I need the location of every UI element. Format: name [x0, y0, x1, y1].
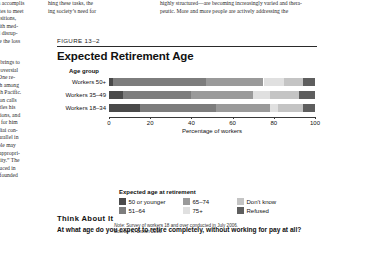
bar-segment: [123, 91, 191, 99]
bar-segment: [109, 104, 140, 112]
body-text-line: hing these tasks, the: [48, 0, 105, 8]
body-text-line: ath.” One re-: [0, 74, 48, 82]
figure-title: Expected Retirement Age: [57, 50, 317, 62]
bar-segment: [216, 104, 270, 112]
x-axis-tick-label: 20: [147, 120, 154, 126]
think-about-it-question: At what age do you expect to retire comp…: [57, 226, 357, 233]
body-text-line: as a parallel in: [0, 134, 48, 142]
bar-segment: [253, 91, 269, 99]
bar-segment: [299, 91, 315, 99]
legend-label: Refused: [247, 208, 269, 214]
legend-swatch: [183, 207, 190, 214]
body-text-line: ossessions, and: [0, 112, 48, 120]
bar-category-label: Workers 18–34: [57, 103, 106, 114]
body-text-line: al transitions,: [0, 15, 48, 23]
body-text-line: t controversial: [0, 67, 48, 75]
legend-swatch: [119, 207, 126, 214]
bar-row: Workers 35–49: [57, 90, 317, 101]
body-text-line: g person calls: [0, 97, 48, 105]
legend-label: Don’t know: [247, 199, 277, 205]
bar-segment: [191, 91, 253, 99]
y-axis-title: Age group: [69, 68, 99, 74]
bar-segment: [113, 78, 206, 86]
x-axis-tick-label: 0: [107, 120, 110, 126]
bar-segment: [270, 104, 278, 112]
body-text-line: despite the loss: [0, 38, 48, 46]
body-text-line: es, settles his: [0, 104, 48, 112]
x-axis-title: Percentage of workers: [182, 128, 242, 134]
legend-title: Expected age at retirement: [119, 189, 319, 195]
bar-segment: [264, 78, 285, 86]
body-text-line: ors. In accomplis: [0, 0, 48, 8]
legend-swatch: [119, 198, 126, 205]
bar-segment: [278, 104, 303, 112]
bar-category-label: Workers 50+: [57, 77, 106, 88]
legend-item: 50 or younger: [119, 197, 181, 206]
body-text-line: introduced in: [0, 165, 48, 173]
x-axis-tick-label: 40: [188, 120, 195, 126]
figure-13-2: FIGURE 13–2 Expected Retirement Age Age …: [57, 37, 317, 205]
legend-label: 65–74: [193, 199, 210, 205]
body-text-line: e people may: [0, 142, 48, 150]
legend-swatch: [183, 198, 190, 205]
body-text-line: he Kaliai con-: [0, 127, 48, 135]
x-axis-line: [109, 117, 315, 118]
stacked-bar: [109, 78, 315, 86]
bar-segment: [284, 78, 303, 86]
body-text-line: h dignity.” The: [0, 157, 48, 165]
body-text-line: ing society’s need for: [48, 8, 105, 16]
body-text-line: e South Pacific.: [0, 89, 48, 97]
body-text-line: nce with med-: [0, 23, 48, 31]
bar-row: Workers 50+: [57, 77, 317, 88]
bar-segment: [303, 78, 315, 86]
legend-swatch: [237, 198, 244, 205]
body-text-line: 67, is founded: [0, 172, 48, 180]
legend-item: 65–74: [183, 197, 235, 206]
x-axis-tick: [109, 117, 110, 120]
x-axis-tick: [150, 117, 151, 120]
figure-rule: [57, 46, 317, 47]
legend-label: 51–64: [129, 208, 146, 214]
bar-row: Workers 18–34: [57, 103, 317, 114]
x-axis-tick-label: 60: [229, 120, 236, 126]
figure-number: FIGURE 13–2: [57, 37, 317, 46]
body-text-line: peutic. More and more people are activel…: [160, 8, 356, 16]
legend-items: 50 or younger65–74Don’t know51–6475+Refu…: [119, 197, 319, 215]
bar-segment: [270, 91, 299, 99]
bar-segment: [303, 104, 315, 112]
bar-segment: [140, 104, 216, 112]
body-text-line: inimal disrup-: [0, 30, 48, 38]
x-axis-tick: [191, 117, 192, 120]
stacked-bar: [109, 91, 315, 99]
body-text-right-top: highly structured—are becoming increasin…: [160, 0, 356, 15]
legend-swatch: [237, 207, 244, 214]
chart-legend: Expected age at retirement 50 or younger…: [119, 189, 319, 215]
think-about-it-heading: Think About It: [57, 214, 357, 223]
think-about-it-section: Think About It At what age do you expect…: [57, 214, 357, 233]
bar-category-label: Workers 35–49: [57, 90, 106, 101]
x-axis: 020406080100 Percentage of workers: [109, 117, 315, 118]
body-text-line: s time for him: [0, 119, 48, 127]
x-axis-tick: [233, 117, 234, 120]
x-axis-tick-label: 80: [270, 120, 277, 126]
x-axis-tick-label: 100: [310, 120, 320, 126]
x-axis-tick: [274, 117, 275, 120]
legend-label: 75+: [193, 208, 203, 214]
body-text-mid-top: hing these tasks, theing society’s need …: [48, 0, 105, 15]
x-axis-tick: [315, 117, 316, 120]
legend-label: 50 or younger: [129, 199, 166, 205]
bar-segment: [109, 91, 123, 99]
stacked-bar-chart: Age group Workers 50+Workers 35–49Worker…: [57, 68, 317, 130]
stacked-bar: [109, 104, 315, 112]
body-text-left-top: ors. In accomplisntributes to meetal tra…: [0, 0, 48, 45]
body-text-line: d death among: [0, 82, 48, 90]
body-text-line: ” an “appropri-: [0, 150, 48, 158]
body-text-line: ntributes to meet: [0, 8, 48, 16]
body-text-line: highly structured—are becoming increasin…: [160, 0, 356, 8]
body-text-left-bottom: alysis brings tot controversialath.” One…: [0, 59, 48, 180]
body-text-line: alysis brings to: [0, 59, 48, 67]
legend-item: Don’t know: [237, 197, 319, 206]
bar-segment: [206, 78, 264, 86]
